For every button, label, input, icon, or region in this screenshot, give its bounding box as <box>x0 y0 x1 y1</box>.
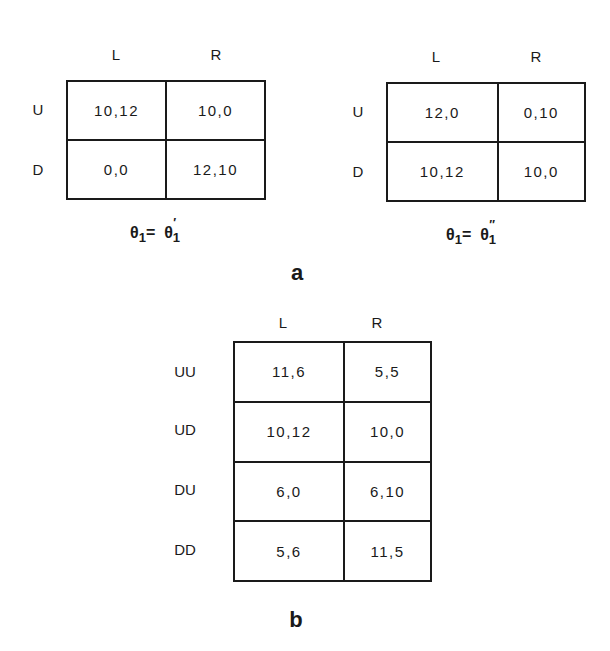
col-header-R: R <box>357 314 397 331</box>
payoff-cell: 0,0 <box>67 140 166 199</box>
prime-mark: ′ <box>173 216 176 230</box>
col-header-L: L <box>263 314 303 331</box>
type-caption: θ1= θ″1 <box>446 226 496 247</box>
col-header-L: L <box>416 48 456 65</box>
payoff-matrix: 11,6 5,5 10,12 10,0 6,0 6,10 5,6 11,5 <box>233 341 432 582</box>
panel-label-a: a <box>282 260 312 286</box>
row-header-D: D <box>18 161 58 178</box>
payoff-cell: 5,5 <box>344 342 431 402</box>
payoff-cell: 10,0 <box>344 402 431 462</box>
payoff-cell: 11,5 <box>344 521 431 581</box>
payoff-matrix: 12,0 0,10 10,12 10,0 <box>386 82 586 202</box>
col-header-R: R <box>516 48 556 65</box>
payoff-cell: 10,0 <box>166 81 265 140</box>
theta-symbol: θ <box>446 226 455 243</box>
row-header-D: D <box>338 163 378 180</box>
payoff-cell: 12,0 <box>387 83 498 142</box>
double-prime-mark: ″ <box>489 218 495 232</box>
row-header-UU: UU <box>165 363 205 380</box>
payoff-cell: 6,10 <box>344 462 431 522</box>
subscript: 1 <box>455 232 462 247</box>
payoff-cell: 6,0 <box>234 462 344 522</box>
payoff-cell: 11,6 <box>234 342 344 402</box>
payoff-matrix: 10,12 10,0 0,0 12,10 <box>66 80 266 200</box>
equals-sign: = <box>462 226 471 243</box>
payoff-cell: 12,10 <box>166 140 265 199</box>
row-header-U: U <box>338 103 378 120</box>
col-header-L: L <box>96 46 136 63</box>
panel-label-b: b <box>281 607 311 633</box>
subscript: 1 <box>489 232 496 247</box>
col-header-R: R <box>196 46 236 63</box>
payoff-cell: 10,0 <box>498 142 585 201</box>
type-caption: θ1= θ′1 <box>130 224 180 245</box>
theta-symbol: θ <box>480 226 489 243</box>
row-header-DD: DD <box>165 541 205 558</box>
theta-symbol: θ <box>164 224 173 241</box>
payoff-cell: 10,12 <box>67 81 166 140</box>
equals-sign: = <box>146 224 155 241</box>
payoff-cell: 10,12 <box>234 402 344 462</box>
subscript: 1 <box>173 230 180 245</box>
theta-symbol: θ <box>130 224 139 241</box>
payoff-cell: 0,10 <box>498 83 585 142</box>
row-header-U: U <box>18 101 58 118</box>
subscript: 1 <box>139 230 146 245</box>
row-header-DU: DU <box>165 481 205 498</box>
payoff-cell: 10,12 <box>387 142 498 201</box>
payoff-cell: 5,6 <box>234 521 344 581</box>
row-header-UD: UD <box>165 421 205 438</box>
